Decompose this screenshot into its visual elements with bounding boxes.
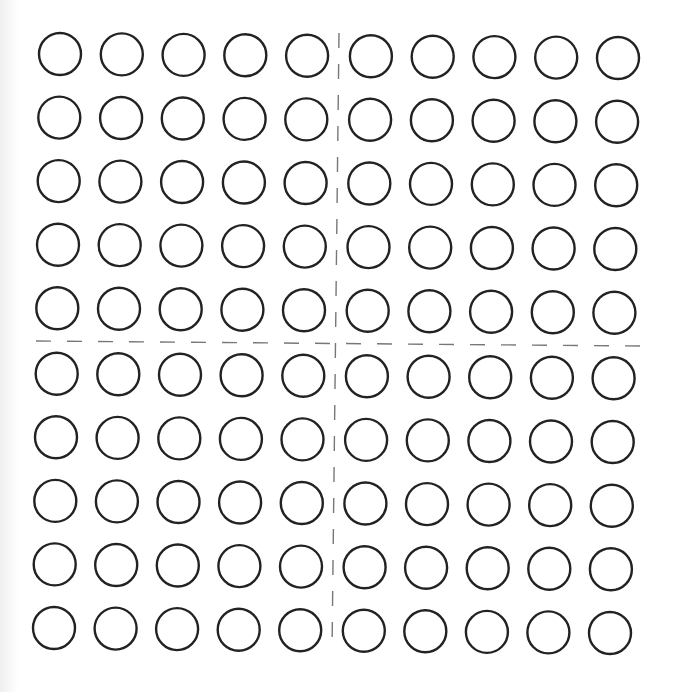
empty-circle-r7-c5 bbox=[282, 418, 324, 460]
empty-circle-r8-c8 bbox=[468, 484, 510, 526]
empty-circle-r2-c5 bbox=[285, 98, 327, 140]
empty-circle-r10-c10 bbox=[589, 612, 631, 654]
empty-circle-r5-c7 bbox=[408, 290, 450, 332]
empty-circle-r10-c6 bbox=[343, 610, 385, 652]
empty-circle-r9-c2 bbox=[95, 544, 137, 586]
empty-circle-r4-c10 bbox=[594, 228, 636, 270]
empty-circle-r7-c4 bbox=[220, 418, 262, 460]
empty-circle-r9-c9 bbox=[528, 548, 570, 590]
empty-circle-r10-c2 bbox=[95, 608, 137, 650]
empty-circle-r2-c7 bbox=[411, 99, 453, 141]
empty-circle-r3-c4 bbox=[223, 162, 265, 204]
empty-circle-r5-c5 bbox=[283, 289, 325, 331]
empty-circle-r1-c7 bbox=[412, 36, 454, 78]
empty-circle-r1-c4 bbox=[224, 34, 266, 76]
empty-circle-r3-c3 bbox=[161, 161, 203, 203]
empty-circle-r8-c1 bbox=[34, 480, 76, 522]
empty-circle-r6-c7 bbox=[408, 356, 450, 398]
empty-circle-r9-c3 bbox=[157, 545, 199, 587]
empty-circle-r2-c9 bbox=[534, 100, 576, 142]
empty-circle-r5-c9 bbox=[532, 291, 574, 333]
empty-circle-r1-c8 bbox=[473, 36, 515, 78]
empty-circle-r10-c5 bbox=[279, 609, 321, 651]
empty-circle-r4-c3 bbox=[160, 225, 202, 267]
empty-circle-r1-c5 bbox=[286, 35, 328, 77]
empty-circle-r6-c9 bbox=[531, 357, 573, 399]
empty-circle-r10-c4 bbox=[218, 609, 260, 651]
empty-circle-r9-c5 bbox=[280, 546, 322, 588]
empty-circle-r10-c7 bbox=[404, 610, 446, 652]
empty-circle-r2-c3 bbox=[162, 98, 204, 140]
horizontal-dashed-divider bbox=[36, 341, 640, 346]
empty-circle-r3-c9 bbox=[534, 164, 576, 206]
empty-circle-r5-c4 bbox=[221, 289, 263, 331]
empty-circle-r4-c7 bbox=[409, 227, 451, 269]
empty-circle-r9-c7 bbox=[405, 547, 447, 589]
empty-circle-r2-c1 bbox=[38, 97, 80, 139]
empty-circle-r4-c8 bbox=[471, 227, 513, 269]
empty-circle-r7-c8 bbox=[468, 420, 510, 462]
empty-circle-r7-c3 bbox=[158, 417, 200, 459]
empty-circle-r7-c1 bbox=[35, 416, 77, 458]
empty-circle-r1-c6 bbox=[350, 35, 392, 77]
empty-circle-r1-c2 bbox=[101, 33, 143, 75]
vertical-dashed-divider bbox=[332, 33, 339, 652]
empty-circle-r7-c2 bbox=[97, 417, 139, 459]
empty-circle-r6-c1 bbox=[36, 353, 78, 395]
empty-circle-r6-c8 bbox=[469, 356, 511, 398]
empty-circle-r3-c6 bbox=[348, 163, 390, 205]
empty-circle-r3-c1 bbox=[38, 160, 80, 202]
empty-circle-r8-c7 bbox=[406, 483, 448, 525]
empty-circle-r8-c2 bbox=[96, 480, 138, 522]
empty-circle-r4-c1 bbox=[37, 224, 79, 266]
empty-circle-r2-c10 bbox=[596, 101, 638, 143]
empty-circle-r4-c5 bbox=[284, 226, 326, 268]
empty-circle-r3-c7 bbox=[410, 163, 452, 205]
empty-circle-r9-c8 bbox=[467, 547, 509, 589]
empty-circle-r3-c2 bbox=[99, 161, 141, 203]
empty-circle-r8-c3 bbox=[158, 481, 200, 523]
empty-circle-r1-c9 bbox=[535, 37, 577, 79]
empty-circle-r8-c10 bbox=[591, 485, 633, 527]
empty-circle-r9-c4 bbox=[218, 545, 260, 587]
empty-circle-r6-c5 bbox=[282, 355, 324, 397]
empty-circle-r2-c6 bbox=[349, 99, 391, 141]
empty-circle-r3-c5 bbox=[285, 162, 327, 204]
empty-circle-r2-c8 bbox=[473, 100, 515, 142]
empty-circle-r9-c10 bbox=[590, 548, 632, 590]
empty-circle-r1-c3 bbox=[163, 34, 205, 76]
empty-circle-r2-c4 bbox=[224, 98, 266, 140]
empty-circle-r5-c1 bbox=[36, 287, 78, 329]
empty-circle-r5-c3 bbox=[160, 288, 202, 330]
empty-circle-r10-c1 bbox=[33, 607, 75, 649]
empty-circle-r5-c10 bbox=[593, 292, 635, 334]
empty-circle-r2-c2 bbox=[100, 97, 142, 139]
empty-circle-r6-c4 bbox=[221, 354, 263, 396]
empty-circle-r9-c1 bbox=[34, 543, 76, 585]
empty-circle-r5-c8 bbox=[470, 291, 512, 333]
empty-circle-r7-c7 bbox=[407, 419, 449, 461]
empty-circle-r5-c2 bbox=[98, 288, 140, 330]
empty-circle-r6-c6 bbox=[346, 355, 388, 397]
empty-circle-r4-c6 bbox=[348, 226, 390, 268]
empty-circle-r7-c10 bbox=[592, 421, 634, 463]
empty-circle-r8-c5 bbox=[281, 482, 323, 524]
empty-circle-r7-c6 bbox=[345, 419, 387, 461]
empty-circle-r10-c9 bbox=[527, 611, 569, 653]
empty-circle-r3-c8 bbox=[472, 163, 514, 205]
quadrant-dividers bbox=[36, 33, 640, 652]
empty-circle-r8-c9 bbox=[529, 484, 571, 526]
empty-circle-r4-c2 bbox=[99, 224, 141, 266]
empty-circle-r4-c9 bbox=[533, 228, 575, 270]
empty-circle-r6-c2 bbox=[97, 353, 139, 395]
empty-circle-r10-c3 bbox=[156, 608, 198, 650]
empty-circle-r1-c10 bbox=[597, 37, 639, 79]
empty-circle-r7-c9 bbox=[530, 421, 572, 463]
hundred-frame-worksheet bbox=[0, 0, 675, 692]
empty-circle-r5-c6 bbox=[347, 290, 389, 332]
empty-circle-r1-c1 bbox=[39, 33, 81, 75]
empty-circle-r4-c4 bbox=[222, 225, 264, 267]
empty-circle-r10-c8 bbox=[466, 611, 508, 653]
empty-circle-r6-c10 bbox=[593, 357, 635, 399]
empty-circle-r6-c3 bbox=[159, 354, 201, 396]
